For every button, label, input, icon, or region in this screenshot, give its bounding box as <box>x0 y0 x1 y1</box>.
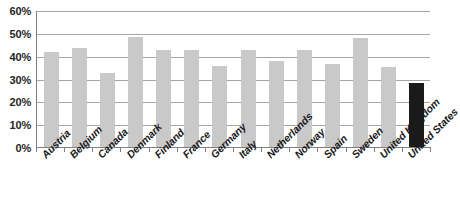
y-axis-tick-label: 0% <box>16 142 32 154</box>
bar <box>128 37 143 147</box>
y-axis-tick-label: 10% <box>10 119 31 131</box>
y-axis: 0%10%20%30%40%50%60% <box>0 0 34 160</box>
x-axis-category-labels: AustriaBelgiumCanadaDenmarkFinlandFrance… <box>36 152 437 221</box>
bar <box>72 48 87 147</box>
y-axis-tick-label: 20% <box>10 96 31 108</box>
y-axis-tick-label: 40% <box>10 51 31 63</box>
bar <box>184 50 199 147</box>
y-axis-tick-label: 50% <box>10 28 31 40</box>
y-axis-tick-label: 30% <box>10 74 31 86</box>
y-axis-tick-label: 60% <box>10 5 31 17</box>
bar <box>353 38 368 147</box>
